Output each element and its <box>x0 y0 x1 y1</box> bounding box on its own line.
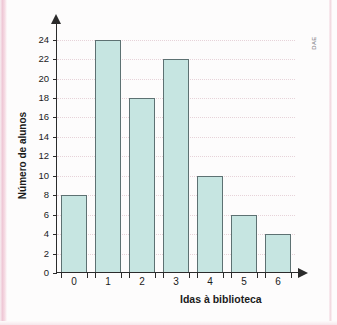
y-tick-label: 4 <box>23 229 49 239</box>
bar <box>231 215 257 273</box>
x-tick-label: 4 <box>195 276 225 287</box>
y-tick-mark <box>53 40 57 41</box>
y-tick-label: 2 <box>23 249 49 259</box>
bar <box>129 98 155 273</box>
y-tick-mark <box>53 98 57 99</box>
y-tick-mark <box>53 215 57 216</box>
y-tick-mark <box>53 273 57 274</box>
y-tick-mark <box>53 79 57 80</box>
y-tick-mark <box>53 137 57 138</box>
y-tick-label: 22 <box>23 54 49 64</box>
y-tick-mark <box>53 195 57 196</box>
y-tick-label: 10 <box>23 171 49 181</box>
y-axis-arrow-icon <box>51 14 61 24</box>
y-tick-label: 18 <box>23 93 49 103</box>
y-tick-label: 14 <box>23 132 49 142</box>
bar <box>163 59 189 273</box>
x-tick-label: 5 <box>229 276 259 287</box>
y-tick-label: 12 <box>23 151 49 161</box>
y-tick-mark <box>53 156 57 157</box>
bar <box>197 176 223 273</box>
bar <box>95 40 121 273</box>
x-axis-title: Idas à biblioteca <box>180 293 262 305</box>
y-tick-label: 16 <box>23 112 49 122</box>
bar <box>61 195 87 273</box>
y-tick-mark <box>53 117 57 118</box>
gridline <box>57 40 295 41</box>
x-axis-line <box>56 272 300 273</box>
chart-page: DAE Número de alunos Idas à biblioteca 0… <box>0 0 337 325</box>
y-tick-label: 24 <box>23 35 49 45</box>
y-tick-label: 20 <box>23 74 49 84</box>
y-tick-label: 6 <box>23 210 49 220</box>
y-tick-mark <box>53 59 57 60</box>
x-tick-label: 2 <box>127 276 157 287</box>
x-tick-label: 0 <box>59 276 89 287</box>
x-tick-label: 1 <box>93 276 123 287</box>
x-axis-arrow-icon <box>298 268 308 278</box>
y-tick-label: 8 <box>23 190 49 200</box>
y-tick-mark <box>53 234 57 235</box>
bar <box>265 234 291 273</box>
x-tick-label: 3 <box>161 276 191 287</box>
plot-area <box>57 30 295 273</box>
bar-chart: Número de alunos Idas à biblioteca 02468… <box>0 0 337 325</box>
y-tick-label: 0 <box>23 268 49 278</box>
y-tick-mark <box>53 176 57 177</box>
x-tick-label: 6 <box>263 276 293 287</box>
y-tick-mark <box>53 254 57 255</box>
